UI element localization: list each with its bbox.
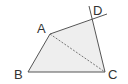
label-c: C: [108, 67, 117, 82]
label-a: A: [37, 21, 46, 36]
geometry-diagram: A B C D: [0, 0, 128, 84]
label-d: D: [93, 3, 102, 18]
label-b: B: [14, 67, 23, 82]
